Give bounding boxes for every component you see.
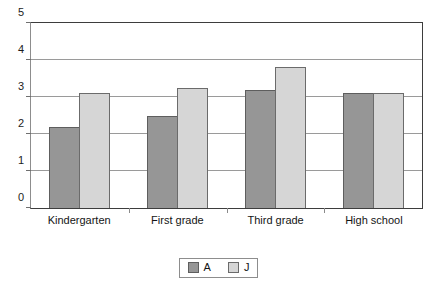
y-axis-tick-label: 4	[18, 44, 24, 55]
x-axis-tick	[227, 208, 228, 213]
y-axis-tick-label: 5	[18, 7, 24, 18]
bar-group	[227, 23, 325, 208]
x-axis-label: First grade	[128, 214, 226, 226]
bar-a-high-school[interactable]	[343, 93, 374, 208]
bar-a-third-grade[interactable]	[245, 90, 276, 208]
bar-a-kindergarten[interactable]	[49, 127, 80, 208]
bar-groups	[31, 23, 422, 208]
legend-swatch-a	[188, 262, 199, 273]
bar-group	[129, 23, 227, 208]
x-axis-label: High school	[325, 214, 423, 226]
bar-j-third-grade[interactable]	[275, 67, 306, 208]
bar-chart: 543210 KindergartenFirst gradeThird grad…	[0, 0, 437, 297]
legend-item-j[interactable]: J	[228, 262, 250, 273]
y-axis-tick-label: 0	[18, 192, 24, 203]
legend: AJ	[0, 258, 437, 278]
legend-swatch-j	[228, 262, 239, 273]
y-axis-tick-label: 2	[18, 118, 24, 129]
legend-box: AJ	[179, 258, 259, 278]
plot-area: 543210	[30, 22, 423, 209]
x-axis-label: Kindergarten	[30, 214, 128, 226]
legend-label: A	[204, 262, 211, 273]
x-axis-label: Third grade	[227, 214, 325, 226]
bar-a-first-grade[interactable]	[147, 116, 178, 209]
bar-group	[31, 23, 129, 208]
y-axis-tick-label: 3	[18, 81, 24, 92]
legend-item-a[interactable]: A	[188, 262, 211, 273]
x-axis-tick	[129, 208, 130, 213]
bar-j-kindergarten[interactable]	[79, 93, 110, 208]
x-axis-labels: KindergartenFirst gradeThird gradeHigh s…	[30, 214, 423, 226]
y-axis-tick-label: 1	[18, 155, 24, 166]
bar-j-first-grade[interactable]	[177, 88, 208, 208]
legend-label: J	[244, 262, 250, 273]
bar-group	[324, 23, 422, 208]
bar-j-high-school[interactable]	[373, 93, 404, 208]
x-axis-tick	[324, 208, 325, 213]
